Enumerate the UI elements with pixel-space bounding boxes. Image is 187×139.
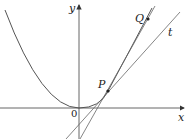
origin-label: 0 bbox=[71, 108, 77, 119]
secant-line bbox=[80, 6, 155, 139]
point-q-label: Q bbox=[135, 12, 144, 25]
point-q bbox=[146, 17, 149, 20]
parabola-curve bbox=[5, 8, 152, 108]
point-p bbox=[106, 89, 109, 92]
y-axis-label: y bbox=[68, 2, 76, 15]
x-axis-label: x bbox=[178, 111, 185, 124]
parabola-tangent-diagram: y x 0 P Q t bbox=[0, 0, 187, 139]
tangent-label: t bbox=[168, 26, 173, 39]
point-p-label: P bbox=[97, 78, 106, 91]
tangent-line bbox=[66, 12, 180, 139]
